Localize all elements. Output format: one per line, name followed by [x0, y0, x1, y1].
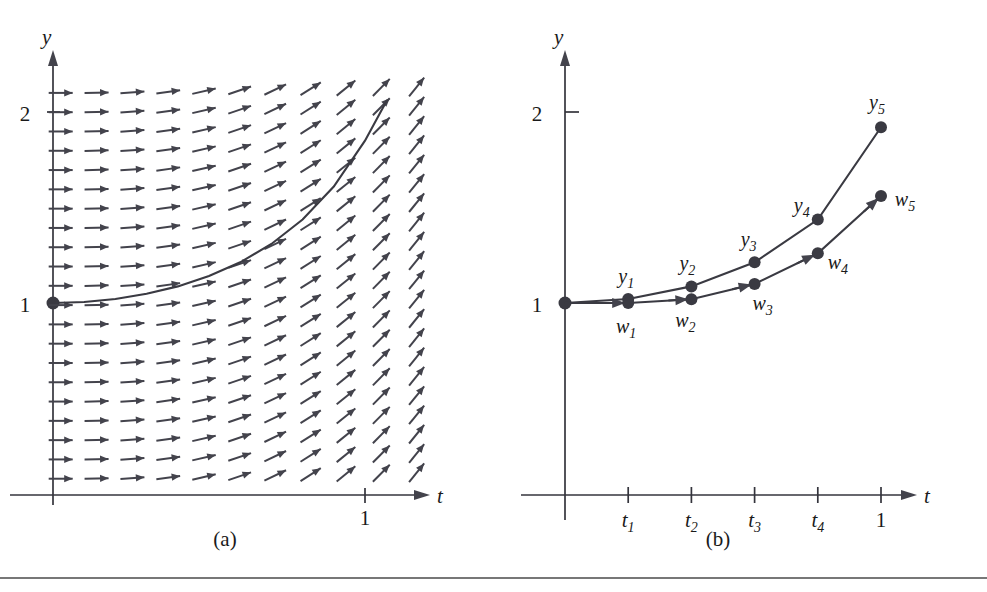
figure-root: y t 2 1 1 y1y2y3 [0, 0, 987, 592]
panel-b-exact-points [622, 121, 887, 305]
svg-text:y3: y3 [739, 228, 757, 254]
panel-b-euler-curve [565, 196, 881, 303]
svg-text:y2: y2 [677, 252, 695, 278]
panel-a-y-axis [48, 50, 58, 505]
panel-b-exact-curve [565, 127, 881, 303]
svg-text:y5: y5 [867, 91, 885, 117]
panel-b-t-axis [521, 490, 917, 500]
panel-a-y-axis-label: y [40, 25, 52, 49]
svg-text:1: 1 [876, 508, 887, 532]
panel-a-ytick-1: 1 [20, 293, 31, 317]
svg-text:t4: t4 [811, 508, 824, 535]
panel-a-t-axis [10, 490, 430, 500]
panel-b-ytick-2: 2 [532, 102, 543, 126]
panel-b-t-axis-label: t [924, 484, 931, 508]
panel-a-plot: y t 2 1 1 [0, 0, 500, 592]
panel-a-ttick-1: 1 [360, 506, 371, 530]
svg-text:w4: w4 [828, 251, 848, 277]
slope-field-arrows [49, 78, 425, 483]
svg-text:y4: y4 [792, 194, 810, 220]
panel-a-ytick-2: 2 [20, 102, 31, 126]
panel-b-euler-labels: w1w2w3w4w5 [616, 188, 915, 341]
svg-text:t1: t1 [622, 508, 635, 535]
panel-b-plot: y1y2y3y4y5 w1w2w3w4w5 y t 2 1 t1t2t3t41 [487, 0, 987, 592]
svg-text:y1: y1 [616, 265, 634, 291]
svg-text:w5: w5 [895, 188, 915, 214]
panel-b-ytick-1: 1 [532, 293, 543, 317]
panel-a-t-axis-label: t [437, 484, 444, 508]
svg-text:w2: w2 [675, 309, 695, 335]
panel-b-y-axis [560, 50, 570, 520]
panel-b-y-axis-label: y [552, 25, 564, 49]
svg-text:w1: w1 [616, 315, 636, 341]
panel-b-caption: (b) [673, 527, 763, 552]
panel-a-caption: (a) [180, 527, 270, 552]
svg-text:w3: w3 [752, 292, 772, 318]
